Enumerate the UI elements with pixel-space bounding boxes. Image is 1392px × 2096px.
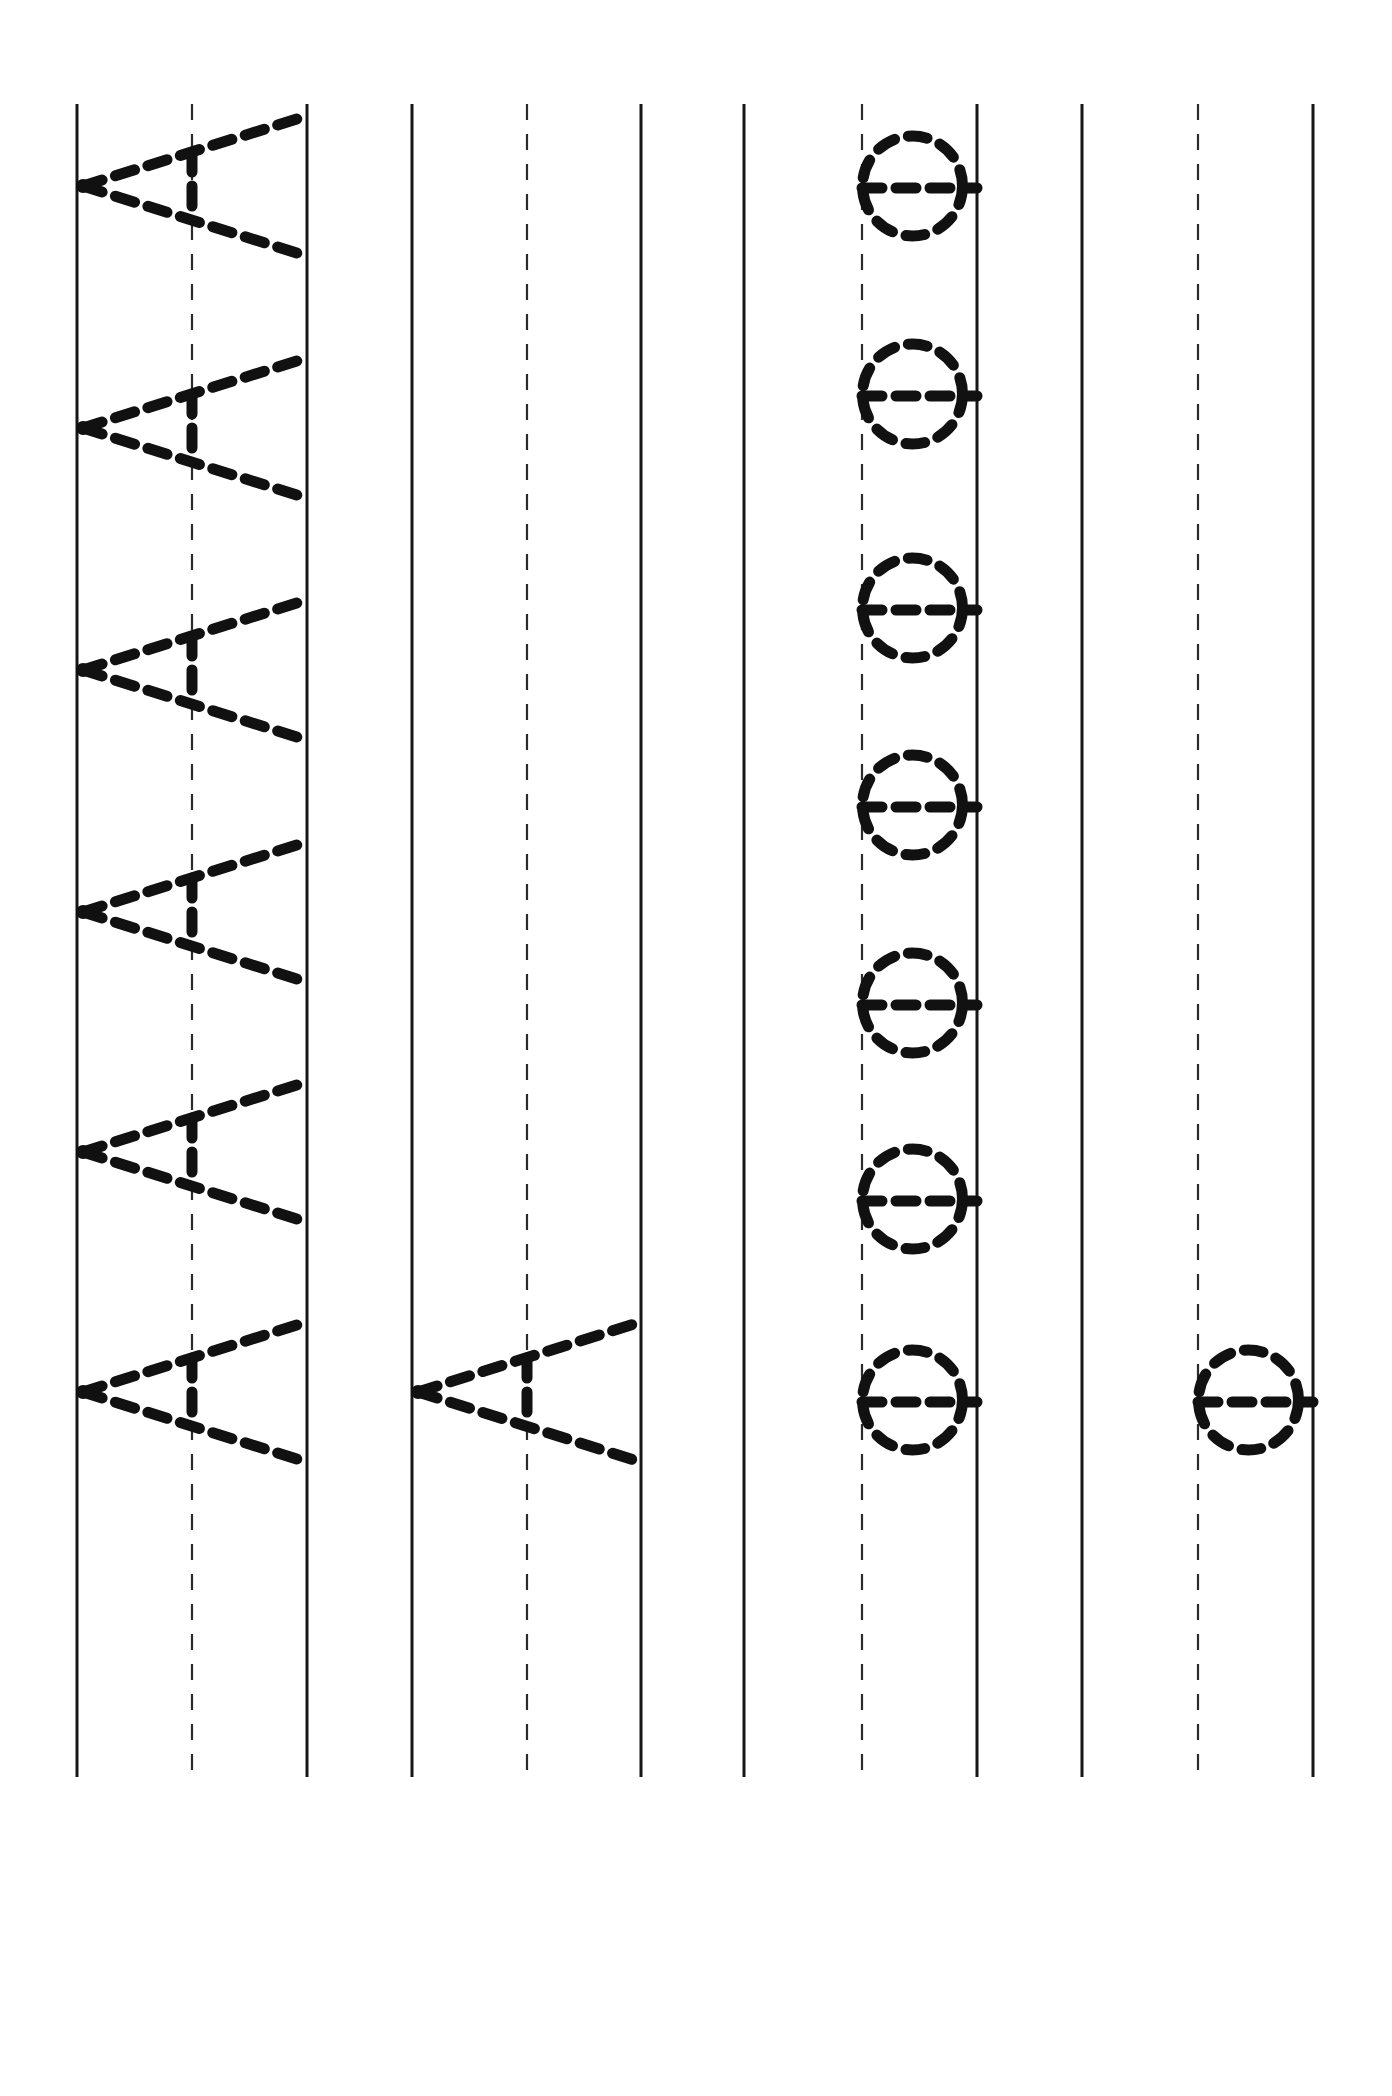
traced-letter-o	[862, 558, 977, 658]
traced-letter-a	[76, 602, 300, 738]
writing-band-2	[411, 104, 641, 1777]
worksheet-canvas	[0, 0, 1392, 2096]
traced-letter-a	[76, 1324, 300, 1460]
traced-letter-o	[862, 344, 977, 444]
traced-letter-a	[411, 1324, 634, 1460]
worksheet-page	[0, 0, 1392, 2096]
traced-letter-o	[862, 136, 977, 236]
writing-band-1	[76, 104, 307, 1777]
traced-letter-o	[862, 953, 977, 1053]
writing-band-4	[1082, 104, 1313, 1777]
traced-letter-o	[1198, 1350, 1313, 1450]
traced-letter-o	[862, 1149, 977, 1249]
traced-letter-a	[76, 118, 300, 254]
traced-letter-o	[862, 755, 977, 855]
writing-band-3	[744, 104, 977, 1777]
traced-letter-a	[76, 844, 300, 980]
traced-letter-a	[76, 360, 300, 496]
traced-letter-o	[862, 1350, 977, 1450]
traced-letter-a	[76, 1084, 300, 1220]
